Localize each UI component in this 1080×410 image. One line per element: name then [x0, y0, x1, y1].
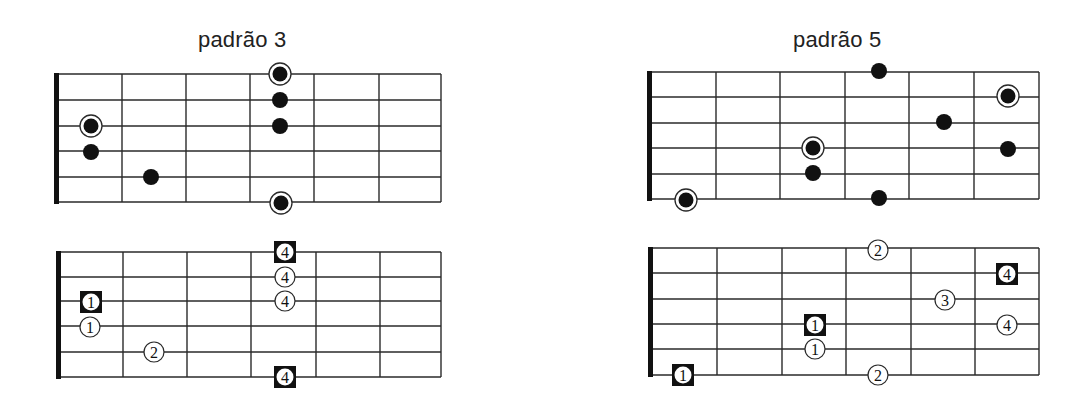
marker-circle: 4: [275, 267, 295, 287]
marker-root: [269, 63, 291, 85]
nut-bar: [56, 251, 61, 379]
marker-dot: [871, 63, 887, 79]
note-dot-icon: [936, 114, 952, 130]
pattern-3-fingers: 4441124: [56, 241, 441, 388]
marker-dot: [272, 118, 288, 134]
root-dot-icon: [1001, 89, 1016, 104]
finger-number: 1: [87, 294, 95, 311]
marker-dot: [83, 144, 99, 160]
note-dot-icon: [272, 118, 288, 134]
root-dot-icon: [273, 67, 288, 82]
note-dot-icon: [871, 63, 887, 79]
finger-number: 2: [150, 344, 158, 361]
marker-circle: 2: [144, 342, 164, 362]
marker-square: 4: [274, 366, 296, 388]
marker-dot: [871, 190, 887, 206]
marker-circle: 2: [868, 365, 888, 385]
marker-root: [802, 137, 824, 159]
pattern-3-dots: [54, 63, 441, 214]
marker-root: [270, 192, 292, 214]
finger-number: 1: [86, 319, 94, 336]
finger-number: 3: [941, 292, 949, 309]
marker-square: 1: [804, 314, 826, 336]
root-dot-icon: [84, 119, 99, 134]
note-dot-icon: [143, 169, 159, 185]
note-dot-icon: [1000, 141, 1016, 157]
marker-circle: 1: [805, 339, 825, 359]
finger-number: 4: [281, 293, 289, 310]
marker-root: [80, 115, 102, 137]
marker-square: 4: [274, 241, 296, 263]
root-dot-icon: [679, 193, 694, 208]
marker-circle: 3: [935, 290, 955, 310]
pattern-5-fingers: 24314112: [648, 240, 1039, 386]
marker-circle: 4: [997, 315, 1017, 335]
marker-circle: 4: [275, 291, 295, 311]
marker-square: 4: [996, 263, 1018, 285]
finger-number: 1: [679, 367, 687, 384]
nut-bar: [647, 71, 652, 201]
finger-number: 1: [811, 317, 819, 334]
finger-number: 2: [874, 242, 882, 259]
note-dot-icon: [871, 190, 887, 206]
marker-dot: [805, 165, 821, 181]
root-dot-icon: [806, 141, 821, 156]
marker-root: [675, 189, 697, 211]
marker-circle: 1: [80, 317, 100, 337]
finger-number: 4: [281, 244, 289, 261]
marker-dot: [143, 169, 159, 185]
finger-number: 4: [1003, 266, 1011, 283]
finger-number: 4: [281, 269, 289, 286]
nut-bar: [648, 247, 653, 377]
note-dot-icon: [805, 165, 821, 181]
finger-number: 4: [1003, 317, 1011, 334]
marker-square: 1: [80, 291, 102, 313]
marker-square: 1: [672, 364, 694, 386]
marker-dot: [936, 114, 952, 130]
finger-number: 1: [811, 341, 819, 358]
finger-number: 4: [281, 369, 289, 386]
fretboard-diagrams: 444112424314112: [0, 0, 1080, 410]
finger-number: 2: [874, 367, 882, 384]
nut-bar: [54, 73, 59, 204]
note-dot-icon: [272, 92, 288, 108]
root-dot-icon: [274, 196, 289, 211]
marker-dot: [272, 92, 288, 108]
pattern-5-dots: [647, 63, 1039, 211]
marker-circle: 2: [868, 240, 888, 260]
marker-dot: [1000, 141, 1016, 157]
marker-root: [997, 85, 1019, 107]
note-dot-icon: [83, 144, 99, 160]
